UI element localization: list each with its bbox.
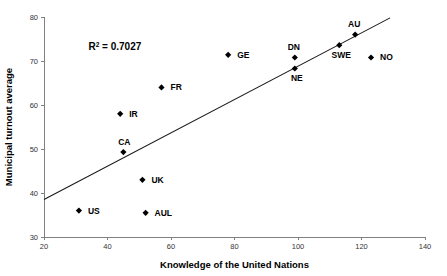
data-point-NE: NE — [291, 65, 303, 83]
point-label-NO: NO — [380, 52, 393, 62]
r-squared-annotation: R2 = 0.7027 — [88, 41, 141, 53]
point-label-NE: NE — [291, 73, 303, 83]
data-point-NO: NO — [368, 52, 393, 62]
x-tick-label-20: 20 — [40, 242, 48, 251]
data-point-CA: CA — [118, 137, 130, 155]
data-point-GE: GE — [225, 50, 250, 60]
data-point-US: US — [76, 206, 100, 216]
data-point-UK: UK — [139, 175, 164, 185]
data-point-DN: DN — [288, 42, 300, 60]
x-tick-label-80: 80 — [230, 242, 238, 251]
y-tick-label-50: 50 — [30, 145, 38, 154]
data-point-FR: FR — [158, 82, 181, 92]
x-tick-label-40: 40 — [103, 242, 111, 251]
point-label-FR: FR — [170, 82, 181, 92]
x-tick-label-60: 60 — [167, 242, 175, 251]
point-label-US: US — [88, 206, 100, 216]
x-tick-label-100: 100 — [292, 242, 305, 251]
marker-GE — [225, 52, 231, 58]
y-tick-label-80: 80 — [30, 13, 38, 22]
y-axis-title: Municipal turnout average — [3, 68, 14, 186]
y-tick-label-60: 60 — [30, 101, 38, 110]
point-label-DN: DN — [288, 42, 300, 52]
point-label-UK: UK — [151, 175, 164, 185]
point-label-IR: IR — [129, 109, 138, 119]
y-tick-label-70: 70 — [30, 57, 38, 66]
x-tick-label-140: 140 — [419, 242, 432, 251]
data-point-IR: IR — [117, 109, 138, 119]
y-tick-label-40: 40 — [30, 189, 38, 198]
x-axis-title: Knowledge of the United Nations — [160, 259, 309, 270]
y-axis-tick-labels: 304050607080 — [30, 13, 38, 242]
point-label-AUL: AUL — [155, 208, 172, 218]
y-tick-label-30: 30 — [30, 233, 38, 242]
data-point-SWE: SWE — [332, 42, 352, 60]
chart-canvas: 20406080100120140 304050607080 USIRCAUKA… — [0, 0, 447, 276]
marker-DN — [292, 54, 298, 60]
r-squared-value: = 0.7027 — [99, 41, 141, 52]
point-label-GE: GE — [237, 50, 250, 60]
point-label-SWE: SWE — [332, 50, 352, 60]
marker-IR — [117, 111, 123, 117]
scatter-chart: 20406080100120140 304050607080 USIRCAUKA… — [0, 0, 447, 276]
marker-AUL — [143, 210, 149, 216]
point-label-CA: CA — [118, 137, 130, 147]
x-axis-tick-labels: 20406080100120140 — [40, 242, 431, 251]
marker-UK — [139, 177, 145, 183]
marker-FR — [158, 84, 164, 90]
x-tick-label-120: 120 — [355, 242, 368, 251]
data-point-AUL: AUL — [143, 208, 173, 218]
marker-NO — [368, 54, 374, 60]
marker-US — [76, 208, 82, 214]
marker-CA — [120, 149, 126, 155]
point-label-AU: AU — [348, 19, 360, 29]
